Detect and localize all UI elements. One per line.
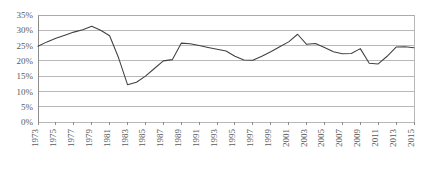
x-axis-tick-label: 1991 — [191, 129, 201, 147]
x-axis-tick-marks — [38, 122, 414, 125]
y-axis-tick-label: 10% — [17, 87, 34, 97]
chart-canvas: 0%5%10%15%20%25%30%35% 19731975197719791… — [0, 0, 428, 180]
x-axis-tick-label: 2011 — [370, 129, 380, 147]
x-axis-tick-label: 1983 — [120, 129, 130, 148]
x-axis-tick-label: 2009 — [352, 129, 362, 148]
x-axis-tick-label: 1985 — [137, 129, 147, 148]
x-axis-tick-label: 1995 — [227, 129, 237, 148]
x-axis-tick-label: 2013 — [388, 129, 398, 148]
line-chart: 0%5%10%15%20%25%30%35% 19731975197719791… — [0, 0, 428, 180]
x-axis-tick-label: 2005 — [316, 129, 326, 148]
x-axis-tick-label: 2015 — [406, 129, 416, 148]
y-axis-tick-label: 30% — [17, 25, 34, 35]
y-axis-tick-label: 15% — [17, 71, 34, 81]
x-axis-tick-label: 1993 — [209, 129, 219, 148]
y-axis-labels: 0%5%10%15%20%25%30%35% — [17, 10, 34, 127]
x-axis-tick-label: 1987 — [155, 129, 165, 148]
x-axis-tick-label: 1973 — [30, 129, 40, 148]
x-axis-tick-label: 2001 — [281, 129, 291, 147]
x-axis-labels: 1973197519771979198119831985198719891991… — [30, 129, 416, 148]
x-axis-tick-label: 2003 — [299, 129, 309, 148]
y-axis-tick-label: 35% — [17, 10, 34, 20]
x-axis-tick-label: 1997 — [245, 129, 255, 148]
x-axis-tick-label: 1981 — [102, 129, 112, 147]
y-axis-tick-label: 20% — [17, 56, 34, 66]
plot-area-border — [38, 15, 414, 122]
x-axis-tick-label: 1977 — [66, 129, 76, 148]
y-axis-tick-label: 5% — [21, 102, 34, 112]
x-axis-tick-label: 1999 — [263, 129, 273, 148]
x-axis-tick-label: 1975 — [48, 129, 58, 148]
x-axis-tick-label: 1989 — [173, 129, 183, 148]
y-axis-tick-label: 0% — [21, 117, 34, 127]
gridlines — [38, 15, 414, 122]
y-axis-tick-label: 25% — [17, 41, 34, 51]
x-axis-tick-label: 2007 — [334, 129, 344, 148]
x-axis-tick-label: 1979 — [84, 129, 94, 148]
